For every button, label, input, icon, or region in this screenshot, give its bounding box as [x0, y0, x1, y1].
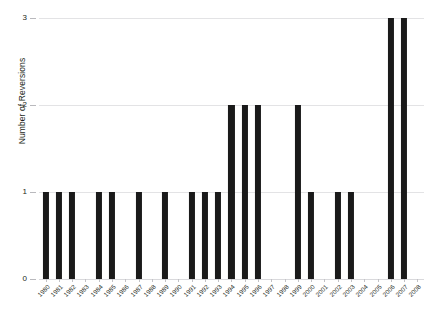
plot-area: [39, 18, 424, 279]
bar: [388, 18, 394, 279]
x-axis-tick-label: 1986: [115, 283, 131, 299]
x-axis-tick-mark: [245, 279, 246, 282]
x-axis-tick-label: 2005: [368, 283, 384, 299]
x-axis-tick: 1985: [105, 279, 118, 314]
x-axis-tick-mark: [285, 279, 286, 282]
bar-slot: [384, 18, 397, 279]
bar: [43, 192, 49, 279]
x-axis-tick: 2001: [318, 279, 331, 314]
x-axis-tick-label: 2001: [314, 283, 330, 299]
x-axis-tick-mark: [139, 279, 140, 282]
x-axis-tick-mark: [165, 279, 166, 282]
bar-slot: [158, 18, 171, 279]
y-axis-tick-mark: [30, 279, 36, 280]
bar-slot: [265, 18, 278, 279]
bar-slot: [105, 18, 118, 279]
x-axis-tick: 1991: [185, 279, 198, 314]
x-axis-tick-mark: [112, 279, 113, 282]
bar: [295, 105, 301, 279]
x-axis-tick-label: 2008: [407, 283, 423, 299]
y-axis-tick-label: 2: [23, 99, 27, 110]
x-axis-tick-mark: [391, 279, 392, 282]
bar-slot: [251, 18, 264, 279]
x-axis-tick-mark: [85, 279, 86, 282]
x-axis-tick: 1982: [66, 279, 79, 314]
bar: [255, 105, 261, 279]
x-axis-tick-mark: [205, 279, 206, 282]
y-axis-tick-group: 0123: [0, 18, 39, 279]
bar: [69, 192, 75, 279]
x-axis-tick: 1999: [291, 279, 304, 314]
x-axis-tick: 1981: [52, 279, 65, 314]
x-axis-tick: 1995: [238, 279, 251, 314]
x-axis-tick-label: 1980: [36, 283, 52, 299]
x-axis-tick-mark: [99, 279, 100, 282]
bar-slot: [79, 18, 92, 279]
bar: [136, 192, 142, 279]
y-axis-tick-mark: [30, 18, 36, 19]
x-axis-tick-mark: [72, 279, 73, 282]
x-axis-tick-label: 1988: [142, 283, 158, 299]
bar-chart-figure: Number of Reversions 0123 19801981198219…: [0, 0, 429, 314]
bar: [308, 192, 314, 279]
bar-slot: [238, 18, 251, 279]
bar-slot: [291, 18, 304, 279]
bar: [401, 18, 407, 279]
bar-slot: [331, 18, 344, 279]
bar-slot: [411, 18, 424, 279]
x-axis-tick-label: 2002: [328, 283, 344, 299]
bar: [348, 192, 354, 279]
x-axis-tick: 2008: [411, 279, 424, 314]
bar-slot: [119, 18, 132, 279]
bar: [56, 192, 62, 279]
x-axis-tick-group: 1980198119821983198419851986198719881989…: [39, 279, 424, 314]
y-axis-tick-label: 3: [23, 12, 27, 23]
x-axis-tick-mark: [231, 279, 232, 282]
x-axis-tick-label: 1998: [275, 283, 291, 299]
bar: [189, 192, 195, 279]
bar-slot: [52, 18, 65, 279]
x-axis-tick: 1996: [251, 279, 264, 314]
x-axis-tick: 1988: [145, 279, 158, 314]
x-axis-tick-mark: [378, 279, 379, 282]
bar-slot: [212, 18, 225, 279]
x-axis-tick: 1998: [278, 279, 291, 314]
x-axis-tick-label: 1984: [89, 283, 105, 299]
x-axis-tick-label: 2004: [354, 283, 370, 299]
x-axis-tick-label: 1997: [261, 283, 277, 299]
y-axis-tick-label: 0: [23, 273, 27, 284]
x-axis-tick-label: 1990: [168, 283, 184, 299]
x-axis-tick-mark: [59, 279, 60, 282]
bar-slot: [358, 18, 371, 279]
x-axis-tick-mark: [404, 279, 405, 282]
x-axis-tick-mark: [218, 279, 219, 282]
x-axis-tick-label: 2006: [381, 283, 397, 299]
x-axis-tick: 2003: [344, 279, 357, 314]
bar-slot: [305, 18, 318, 279]
bar: [335, 192, 341, 279]
x-axis-tick-mark: [125, 279, 126, 282]
x-axis-tick-mark: [152, 279, 153, 282]
x-axis-tick: 2000: [305, 279, 318, 314]
bar: [215, 192, 221, 279]
x-axis-tick-mark: [258, 279, 259, 282]
y-axis-tick-label: 1: [23, 186, 27, 197]
x-axis-tick-mark: [192, 279, 193, 282]
x-axis-tick-mark: [417, 279, 418, 282]
x-axis-tick-mark: [351, 279, 352, 282]
x-axis-tick-mark: [178, 279, 179, 282]
x-axis-tick-mark: [338, 279, 339, 282]
x-axis-tick-label: 1983: [76, 283, 92, 299]
x-axis-tick: 1986: [119, 279, 132, 314]
bar: [109, 192, 115, 279]
y-axis-tick-mark: [30, 105, 36, 106]
x-axis-tick-label: 1999: [288, 283, 304, 299]
x-axis-tick: 1983: [79, 279, 92, 314]
x-axis-tick: 1994: [225, 279, 238, 314]
x-axis-tick-label: 1994: [222, 283, 238, 299]
x-axis-tick: 1990: [172, 279, 185, 314]
x-axis-tick: 1993: [212, 279, 225, 314]
x-axis-tick-mark: [311, 279, 312, 282]
y-axis-tick: 3: [0, 18, 39, 19]
x-axis-tick-label: 1995: [235, 283, 251, 299]
